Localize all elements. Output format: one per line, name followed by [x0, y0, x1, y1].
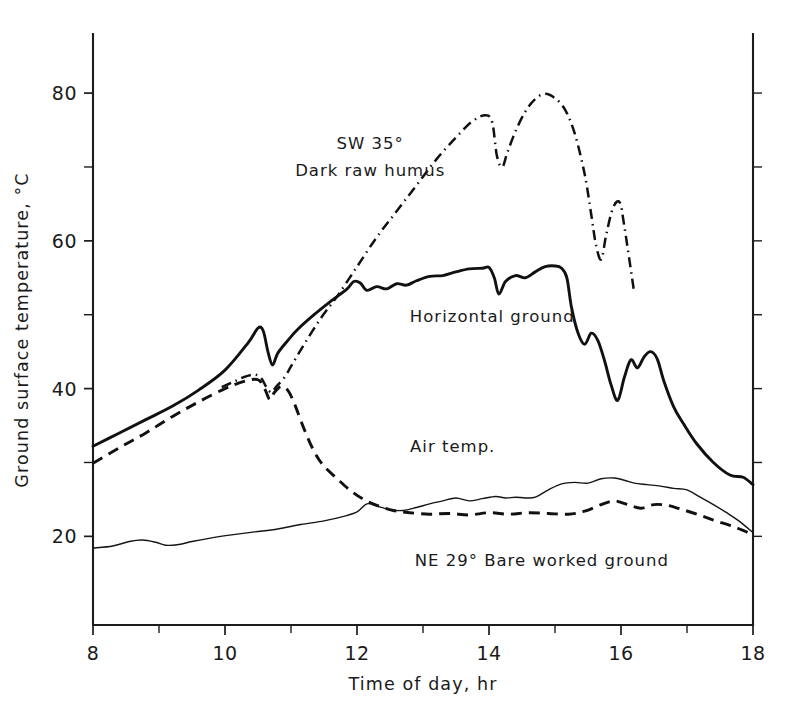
annotation-label: SW 35°: [337, 134, 404, 153]
x-tick-label: 8: [87, 642, 100, 664]
annotation-label: Horizontal ground: [410, 307, 575, 326]
x-axis-title: Time of day, hr: [348, 674, 498, 694]
x-tick-label: 18: [740, 642, 765, 664]
x-tick-label: 12: [344, 642, 369, 664]
annotation-label: Dark raw humus: [295, 161, 445, 180]
curve-annotations: SW 35°Dark raw humusHorizontal groundAir…: [295, 134, 669, 570]
x-tick-label: 16: [608, 642, 633, 664]
axes-frame: [93, 34, 753, 625]
ground-temperature-line-chart: 2040608081012141618 SW 35°Dark raw humus…: [0, 0, 800, 727]
y-axis-title: Ground surface temperature, °C: [12, 172, 32, 487]
y-tick-label: 40: [52, 378, 77, 400]
x-tick-label: 10: [212, 642, 237, 664]
y-tick-label: 60: [52, 230, 77, 252]
y-tick-label: 20: [52, 525, 77, 547]
annotation-label: NE 29° Bare worked ground: [415, 551, 669, 570]
axis-spines-left-bottom: [93, 34, 753, 625]
series-line-ne-29-bare-worked-ground: [93, 379, 753, 535]
annotation-label: Air temp.: [410, 437, 495, 456]
chart-figure: 2040608081012141618 SW 35°Dark raw humus…: [0, 0, 800, 727]
x-tick-label: 14: [476, 642, 501, 664]
y-tick-label: 80: [52, 82, 77, 104]
